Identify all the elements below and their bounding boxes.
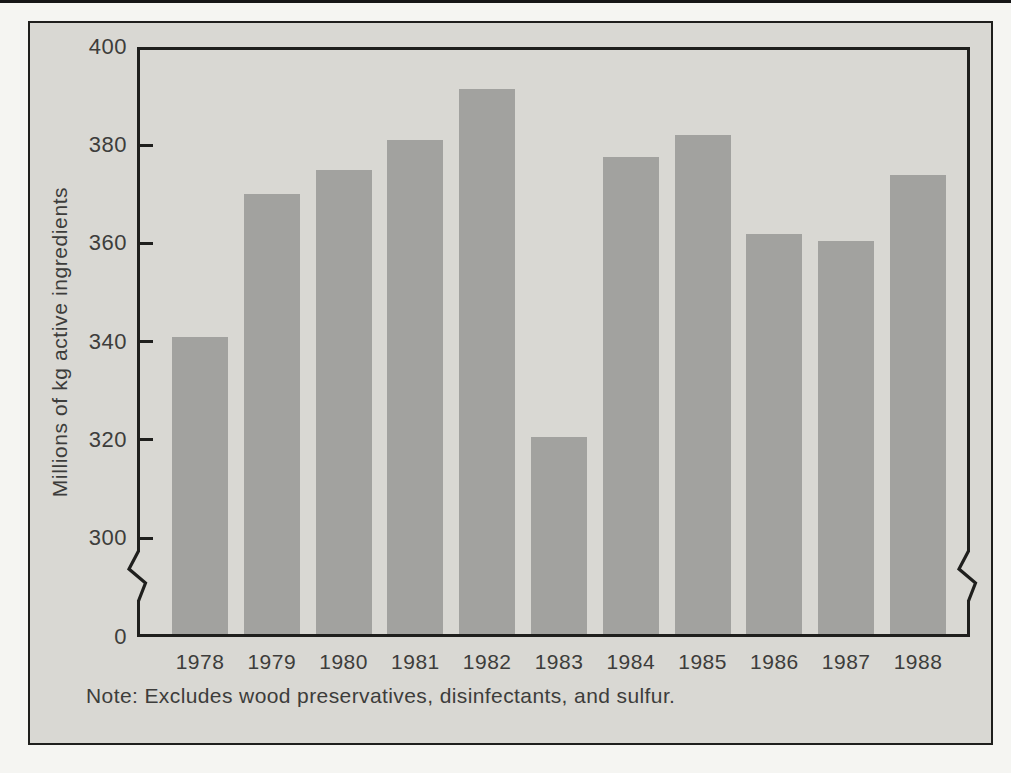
bar-1979 [244,194,300,634]
scan-edge-artifact [0,0,1011,3]
y-tick-label-360: 360 [41,230,127,256]
y-tick-label-340: 340 [41,329,127,355]
y-tick-label-380: 380 [41,132,127,158]
bar-1982 [459,89,515,634]
plot-area [137,47,970,637]
y-tick-mark-340 [137,340,153,343]
x-tick-label-1986: 1986 [738,650,810,674]
y-tick-mark-320 [137,438,153,441]
y-tick-label-400: 400 [41,34,127,60]
y-tick-mark-380 [137,144,153,147]
y-tick-label-320: 320 [41,427,127,453]
page: Millions of kg active ingredients Note: … [0,0,1011,773]
y-tick-mark-360 [137,242,153,245]
x-tick-label-1979: 1979 [236,650,308,674]
x-tick-label-1985: 1985 [667,650,739,674]
y-axis-break-left [123,550,153,602]
bar-1986 [746,234,802,634]
y-tick-mark-300 [137,537,153,540]
x-tick-label-1982: 1982 [451,650,523,674]
bar-1988 [890,175,946,634]
x-tick-label-1978: 1978 [164,650,236,674]
chart-note: Note: Excludes wood preservatives, disin… [86,684,675,708]
bar-1983 [531,437,587,634]
x-tick-label-1980: 1980 [308,650,380,674]
x-tick-label-1983: 1983 [523,650,595,674]
bar-1980 [316,170,372,634]
y-tick-label-300: 300 [41,525,127,551]
x-tick-label-1988: 1988 [882,650,954,674]
bar-1987 [818,241,874,634]
x-tick-label-1981: 1981 [379,650,451,674]
y-axis-break-right [954,550,984,602]
bar-1985 [675,135,731,634]
y-tick-label-0: 0 [41,624,127,650]
x-tick-label-1987: 1987 [810,650,882,674]
x-tick-label-1984: 1984 [595,650,667,674]
bar-1984 [603,157,659,634]
bar-1978 [172,337,228,634]
bar-1981 [387,140,443,634]
